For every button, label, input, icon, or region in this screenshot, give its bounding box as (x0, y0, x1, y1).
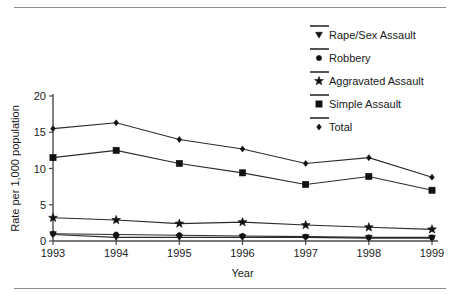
x-axis-tick-label: 1999 (420, 247, 444, 259)
legend-item-robbery[interactable]: Robbery (310, 49, 371, 64)
series-aggravated-assault (49, 213, 437, 233)
x-axis-tick-label: 1994 (104, 247, 128, 259)
data-point-marker (177, 233, 182, 238)
data-point-marker (428, 225, 437, 233)
plot-series-group (49, 120, 437, 241)
data-point-marker (316, 101, 322, 107)
y-axis-tick-label: 5 (40, 199, 46, 211)
legend-label: Aggravated Assault (329, 75, 424, 87)
data-point-marker (239, 170, 245, 176)
data-point-marker (240, 146, 245, 152)
data-point-marker (316, 32, 323, 38)
data-point-marker (177, 137, 182, 143)
legend-label: Simple Assault (329, 98, 401, 110)
bottom-divider-rule (14, 288, 446, 289)
y-axis-tick-label: 15 (34, 126, 46, 138)
x-axis-tick-label: 1995 (167, 247, 191, 259)
top-divider-rule (14, 7, 446, 8)
data-point-marker (429, 235, 434, 240)
legend-label: Total (329, 121, 352, 133)
legend-item-simple-assault[interactable]: Simple Assault (310, 95, 401, 110)
data-point-marker (50, 155, 56, 161)
series-simple-assault (50, 147, 435, 193)
data-point-marker (303, 160, 308, 166)
chart-legend: Rape/Sex AssaultRobberyAggravated Assaul… (310, 26, 424, 133)
x-axis-tick-label: 1993 (41, 247, 65, 259)
data-point-marker (240, 233, 245, 238)
data-point-marker (114, 120, 119, 126)
data-point-marker (301, 220, 310, 228)
chart-figure: 051015201993199419951996199719981999 Rap… (0, 0, 460, 294)
data-point-marker (303, 234, 308, 239)
x-axis-tick-label: 1996 (230, 247, 254, 259)
data-point-marker (114, 232, 119, 237)
data-point-marker (317, 124, 322, 130)
data-point-marker (364, 223, 373, 231)
data-point-marker (176, 160, 182, 166)
data-point-marker (113, 147, 119, 153)
legend-item-total[interactable]: Total (310, 118, 352, 133)
data-point-marker (112, 215, 121, 223)
data-point-marker (366, 155, 371, 161)
data-point-marker (430, 174, 435, 180)
data-point-marker (315, 76, 324, 84)
data-point-marker (175, 219, 184, 227)
legend-label: Robbery (329, 52, 371, 64)
axes-group: 051015201993199419951996199719981999 (34, 90, 444, 259)
data-point-marker (303, 181, 309, 187)
data-point-marker (429, 187, 435, 193)
y-axis-tick-label: 0 (40, 235, 46, 247)
line-chart: 051015201993199419951996199719981999 Rap… (0, 0, 460, 294)
legend-item-rape-sex-assault[interactable]: Rape/Sex Assault (310, 26, 416, 41)
data-point-marker (50, 231, 55, 236)
x-axis-title: Year (231, 267, 254, 279)
data-point-marker (51, 126, 56, 132)
x-axis-tick-label: 1997 (293, 247, 317, 259)
legend-item-aggravated-assault[interactable]: Aggravated Assault (310, 72, 424, 87)
data-point-marker (366, 235, 371, 240)
data-point-marker (366, 173, 372, 179)
y-axis-tick-label: 20 (34, 90, 46, 102)
data-point-marker (316, 55, 321, 60)
y-axis-title: Rate per 1,000 population (9, 105, 21, 232)
data-point-marker (238, 218, 247, 226)
series-robbery (50, 231, 434, 240)
x-axis-tick-label: 1998 (357, 247, 381, 259)
y-axis-tick-label: 10 (34, 163, 46, 175)
legend-label: Rape/Sex Assault (329, 29, 416, 41)
